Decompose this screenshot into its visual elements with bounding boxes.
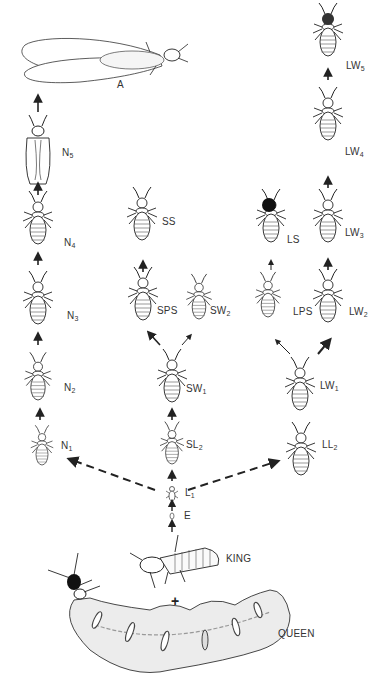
label-king: KING: [226, 553, 251, 564]
arrow-l1-ll2: [188, 462, 275, 490]
worker-sw1: [157, 349, 187, 402]
label-n3: N3: [67, 310, 79, 322]
label-n5: N5: [62, 147, 74, 159]
label-a: A: [117, 79, 124, 91]
label-queen: QUEEN: [278, 628, 315, 639]
nymph-n5: [26, 115, 50, 184]
nymph-n2: [25, 352, 52, 400]
nymph-n1: [31, 425, 54, 465]
nymph-n3: [23, 271, 53, 324]
label-n4: N4: [64, 237, 76, 249]
soldier-ls: [256, 189, 286, 242]
larva-ll2: [286, 422, 316, 475]
worker-lw1: [285, 357, 315, 410]
worker-lw4: [313, 87, 343, 140]
worker-lw2: [313, 269, 343, 322]
worker-lw3: [313, 189, 343, 242]
label-sps: SPS: [157, 305, 178, 317]
worker-lw5: [313, 3, 343, 56]
label-n1: N1: [61, 440, 73, 452]
label-lw5: LW5: [346, 60, 365, 72]
label-lps: LPS: [293, 306, 313, 318]
soldier-head: [262, 198, 276, 212]
larva-l1: [166, 487, 178, 502]
caste-diagram: +: [0, 0, 382, 685]
label-ls: LS: [287, 234, 300, 246]
label-e: E: [184, 510, 191, 522]
egg-e: [170, 513, 174, 519]
label-lw3: LW3: [345, 227, 364, 239]
soldier-ss: [127, 187, 157, 240]
larva-sl2: [160, 422, 184, 464]
label-ss: SS: [162, 216, 176, 228]
alate-illustration: [22, 38, 188, 82]
label-ll2: LL2: [322, 439, 338, 451]
label-sw1: SW1: [186, 383, 207, 395]
label-lw1: LW1: [320, 380, 339, 392]
worker-sw2: [186, 274, 212, 319]
label-l1: L1: [185, 487, 195, 499]
presoldier-lps: [255, 272, 281, 317]
label-lw2: LW2: [349, 306, 368, 318]
arrow-l1-n1: [72, 460, 155, 490]
presoldier-sps: [128, 267, 158, 320]
nymph-n4: [23, 191, 53, 244]
label-sl2: SL2: [186, 439, 203, 451]
label-sw2: SW2: [210, 305, 231, 317]
king-illustration: [130, 535, 219, 588]
label-n2: N2: [64, 382, 76, 394]
label-lw4: LW4: [345, 146, 364, 158]
